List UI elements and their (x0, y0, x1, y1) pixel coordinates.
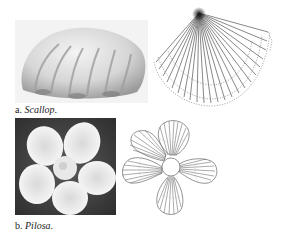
caption-b: b. Pilosa. (15, 220, 53, 231)
caption-a: a. Scallop. (15, 104, 57, 115)
pilosa-flower-illustration (15, 118, 116, 215)
scallop-photo (15, 20, 148, 103)
pilosa-photo (15, 118, 116, 215)
scallop-fan-diagram (150, 5, 275, 110)
caption-a-suffix: . (54, 104, 57, 115)
caption-a-name: Scallop (24, 104, 54, 115)
scallop-shell-illustration (15, 20, 148, 103)
caption-b-suffix: . (51, 220, 54, 231)
caption-b-name: Pilosa (25, 220, 51, 231)
caption-a-prefix: a. (15, 104, 22, 115)
caption-b-prefix: b. (15, 220, 23, 231)
pilosa-petal-diagram (118, 117, 223, 217)
